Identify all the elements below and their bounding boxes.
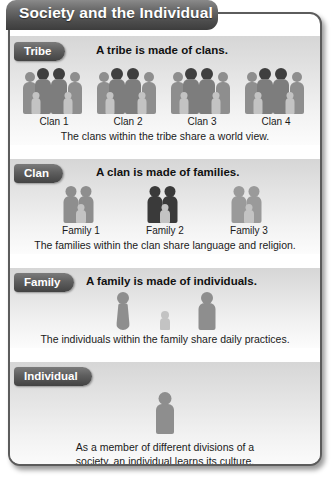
section-heading-clan: A clan is made of families. — [96, 166, 239, 178]
page-title: Society and the Individual — [19, 4, 213, 22]
poster-header: Society and the Individual — [6, 0, 218, 30]
child-icon — [105, 92, 115, 114]
child-icon — [253, 92, 263, 114]
section-heading-family: A family is made of individuals. — [86, 275, 257, 287]
section-caption-clan: The families within the clan share langu… — [10, 238, 320, 252]
section-label-individual: Individual — [14, 367, 92, 386]
clan-figures — [244, 62, 308, 114]
family-figures — [230, 183, 268, 223]
group-label: Clan 2 — [114, 116, 143, 127]
child-icon — [211, 92, 221, 114]
section-label-clan: Clan — [14, 164, 63, 183]
tribe-clan-row: Clan 1 — [10, 62, 320, 127]
person-icon — [113, 292, 133, 330]
child-icon — [75, 204, 86, 223]
section-caption-individual: As a member of different divisions of a … — [10, 440, 320, 466]
person-icon — [197, 292, 217, 330]
poster-frame: Tribe A tribe is made of clans. — [8, 12, 322, 466]
clan-family-row: Family 1 — [10, 183, 320, 236]
group-label: Clan 3 — [188, 116, 217, 127]
clan-figures — [96, 62, 160, 114]
infographic-poster: Tribe A tribe is made of clans. — [0, 0, 331, 478]
group-label: Family 1 — [62, 225, 100, 236]
clan-group: Clan 2 — [96, 62, 160, 127]
family-figures — [146, 183, 184, 223]
family-group: Family 3 — [230, 183, 268, 236]
person-icon — [154, 392, 176, 434]
child-icon — [243, 204, 254, 223]
family-individual-row — [10, 292, 320, 330]
section-clan: Clan A clan is made of families. — [10, 159, 320, 254]
child-icon — [159, 204, 170, 223]
family-group: Family 1 — [62, 183, 100, 236]
section-label-family: Family — [14, 273, 74, 292]
clan-figures — [170, 62, 234, 114]
clan-group: Clan 4 — [244, 62, 308, 127]
individual-row — [10, 392, 320, 434]
group-label: Clan 4 — [262, 116, 291, 127]
family-group: Family 2 — [146, 183, 184, 236]
section-individual: Individual As a member of different divi… — [10, 362, 320, 466]
child-icon — [159, 311, 171, 330]
section-tribe: Tribe A tribe is made of clans. — [10, 36, 320, 145]
child-icon — [285, 92, 295, 114]
section-caption-tribe: The clans within the tribe share a world… — [10, 129, 320, 143]
child-icon — [63, 92, 73, 114]
child-icon — [31, 92, 41, 114]
group-label: Clan 1 — [40, 116, 69, 127]
clan-figures — [22, 62, 86, 114]
section-label-tribe: Tribe — [14, 42, 65, 61]
clan-group: Clan 1 — [22, 62, 86, 127]
family-figures — [62, 183, 100, 223]
group-label: Family 2 — [146, 225, 184, 236]
child-icon — [137, 92, 147, 114]
section-caption-family: The individuals within the family share … — [10, 332, 320, 346]
section-family: Family A family is made of individuals. … — [10, 268, 320, 348]
clan-group: Clan 3 — [170, 62, 234, 127]
child-icon — [179, 92, 189, 114]
section-heading-tribe: A tribe is made of clans. — [96, 44, 228, 56]
group-label: Family 3 — [230, 225, 268, 236]
